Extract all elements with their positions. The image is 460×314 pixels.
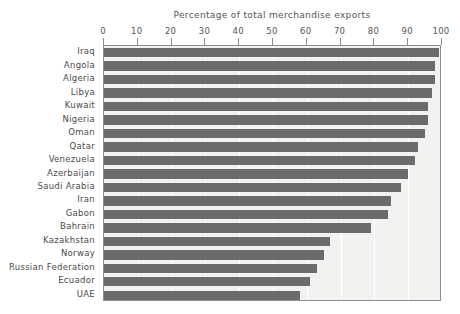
bar [104,115,428,124]
y-axis-category-labels: IraqAngolaAlgeriaLibyaKuwaitNigeriaOmanQ… [0,45,99,301]
x-tick-mark [306,38,307,45]
y-axis-label: Nigeria [0,114,99,124]
x-tick-mark [272,38,273,45]
bar [104,237,330,246]
bar-row [104,48,440,57]
bar-row [104,88,440,97]
bar-row [104,277,440,286]
x-tick-label: 20 [165,26,176,36]
y-axis-label: Libya [0,87,99,97]
bar [104,183,401,192]
bar-row [104,183,440,192]
y-axis-label: Venezuela [0,154,99,164]
bar-row [104,75,440,84]
bar [104,264,317,273]
x-tick-mark [340,38,341,45]
x-tick-label: 0 [100,26,106,36]
x-tick-mark [441,38,442,45]
bar-row [104,196,440,205]
y-axis-label: Saudi Arabia [0,181,99,191]
x-tick-label: 40 [232,26,243,36]
x-axis-tick-labels: 0102030405060708090100 [0,26,460,38]
x-tick-label: 30 [199,26,210,36]
y-axis-label: Algeria [0,73,99,83]
bar-row [104,210,440,219]
bar [104,223,371,232]
bar [104,88,432,97]
x-tick-label: 60 [300,26,311,36]
bar-row [104,264,440,273]
x-tick-mark [407,38,408,45]
y-axis-label: Angola [0,60,99,70]
x-tick-mark [171,38,172,45]
bar [104,277,310,286]
chart-title: Percentage of total merchandise exports [103,10,441,20]
x-axis-tick-marks [0,38,460,45]
y-axis-label: Qatar [0,141,99,151]
y-axis-label: Norway [0,248,99,258]
y-axis-label: Iraq [0,46,99,56]
bar-row [104,223,440,232]
y-axis-label: Russian Federation [0,262,99,272]
bar [104,142,418,151]
bar [104,210,388,219]
bar-row [104,291,440,300]
bar [104,291,300,300]
bar [104,169,408,178]
x-tick-mark [137,38,138,45]
bar-row [104,156,440,165]
bars-layer [104,46,440,300]
y-axis-label: Gabon [0,208,99,218]
bar-row [104,115,440,124]
x-tick-label: 10 [131,26,142,36]
x-tick-mark [103,38,104,45]
bar [104,102,428,111]
bar-chart: Percentage of total merchandise exports … [0,0,460,314]
y-axis-label: Kazakhstan [0,235,99,245]
bar [104,129,425,138]
bar-row [104,142,440,151]
bar [104,156,415,165]
x-tick-label: 100 [432,26,449,36]
bar-row [104,61,440,70]
x-tick-mark [238,38,239,45]
y-axis-label: Iran [0,194,99,204]
y-axis-label: Kuwait [0,100,99,110]
x-tick-label: 50 [266,26,277,36]
bar [104,250,324,259]
bar-row [104,169,440,178]
y-axis-label: Oman [0,127,99,137]
bar [104,75,435,84]
bar-row [104,102,440,111]
y-axis-label: UAE [0,289,99,299]
x-tick-label: 70 [334,26,345,36]
x-tick-label: 90 [401,26,412,36]
y-axis-label: Ecuador [0,275,99,285]
y-axis-label: Azerbaijan [0,168,99,178]
bar [104,48,439,57]
bar [104,61,435,70]
bar [104,196,391,205]
x-tick-label: 80 [368,26,379,36]
plot-area [103,45,441,301]
bar-row [104,250,440,259]
bar-row [104,129,440,138]
bar-row [104,237,440,246]
x-tick-mark [204,38,205,45]
x-tick-mark [373,38,374,45]
y-axis-label: Bahrain [0,221,99,231]
